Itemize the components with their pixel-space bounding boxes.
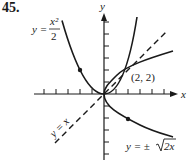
parabola-label-numerator: x² — [49, 15, 59, 27]
graph-figure: 45. — [0, 0, 196, 165]
y-axis-label: y — [99, 0, 105, 12]
sqrt-label-radicand: 2x — [164, 140, 175, 152]
line-label: y = x — [46, 115, 71, 140]
x-axis-label: x — [180, 88, 186, 100]
parabola-curve — [62, 17, 137, 94]
plot-area: y x (2, 2) y = x² 2 y = x y = ± 2x — [0, 0, 196, 165]
sqrt-point-marker-icon — [126, 117, 130, 121]
intersection-label: (2, 2) — [131, 71, 155, 84]
parabola-label-denominator: 2 — [51, 30, 57, 42]
x-axis-arrow-icon — [170, 91, 178, 97]
sqrt-label-prefix: y = ± — [125, 140, 150, 152]
parabola-point-marker-icon — [78, 68, 82, 72]
parabola-label-lhs: y = — [31, 23, 47, 35]
y-axis-arrow-icon — [101, 13, 107, 21]
